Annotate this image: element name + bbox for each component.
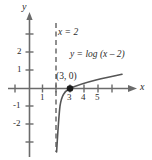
asymptote-label: x = 2 — [58, 28, 78, 38]
y-tick-label-2: 2 — [17, 47, 22, 56]
x-tick-label-4: 4 — [81, 93, 86, 102]
y-axis-arrow — [26, 12, 32, 20]
x-axis-arrow — [128, 85, 137, 92]
y-tick-label-neg2: -2 — [13, 119, 21, 128]
y-tick-label-1: 1 — [17, 65, 22, 74]
x-tick-label-1: 1 — [40, 93, 45, 102]
x-tick-label-5: 5 — [95, 93, 100, 102]
x-tick-label-3: 3 — [67, 93, 72, 102]
y-axis-label: y — [22, 2, 26, 12]
point-coordinate-label: (3, 0) — [56, 72, 77, 82]
curve-equation-label: y = log (x – 2) — [70, 50, 125, 60]
graph-figure: y x 2 1 -1 -2 1 3 4 5 x = 2 y = log (x –… — [0, 0, 152, 160]
y-tick-label-neg1: -1 — [13, 101, 21, 110]
marked-point-3-0 — [67, 85, 74, 92]
x-axis-label: x — [140, 82, 144, 92]
